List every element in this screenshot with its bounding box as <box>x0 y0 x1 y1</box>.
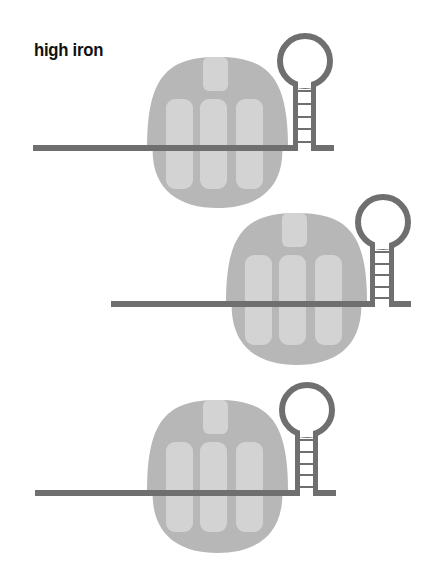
mrna-line <box>111 301 375 307</box>
base-pair-rung <box>300 439 313 441</box>
ribosome <box>226 213 367 365</box>
base-pair-rung <box>298 128 311 130</box>
trna-site-3 <box>315 255 342 345</box>
base-pair-rung <box>300 463 313 465</box>
base-pair-rung <box>375 297 389 299</box>
ribosome <box>147 400 288 553</box>
ribosome-exit-channel <box>203 57 228 91</box>
panel-2 <box>111 197 411 365</box>
panel-3 <box>35 385 336 553</box>
panel-1 <box>33 36 334 208</box>
stem-right <box>313 431 318 496</box>
trna-site-1 <box>166 99 193 189</box>
stem-right <box>311 82 316 151</box>
base-pair-rung <box>375 263 389 265</box>
ribosome-exit-channel <box>282 213 307 247</box>
base-pair-rung <box>298 90 311 92</box>
base-pair-rung <box>298 141 311 143</box>
base-pair-rung <box>375 274 389 276</box>
ribosome <box>147 57 288 208</box>
trna-site-1 <box>245 255 272 345</box>
hairpin-loop <box>358 197 408 247</box>
trna-site-2 <box>200 442 227 532</box>
mrna-line <box>33 145 298 151</box>
trna-site-3 <box>236 99 263 189</box>
stem-right <box>389 243 394 307</box>
trna-site-2 <box>279 255 306 345</box>
ribosome-exit-channel <box>203 400 228 434</box>
base-pair-rung <box>300 486 313 488</box>
base-pair-rung <box>300 474 313 476</box>
base-pair-rung <box>298 116 311 118</box>
base-pair-rung <box>300 451 313 453</box>
stem-left <box>295 431 300 496</box>
hairpin-loop <box>280 36 330 86</box>
base-pair-rung <box>375 251 389 253</box>
stem-left <box>293 82 298 151</box>
trna-site-1 <box>166 442 193 532</box>
stem-left <box>370 243 375 307</box>
trna-site-3 <box>236 442 263 532</box>
base-pair-rung <box>298 103 311 105</box>
base-pair-rung <box>375 286 389 288</box>
translation-diagram <box>0 0 438 581</box>
trna-site-2 <box>200 99 227 189</box>
hairpin-loop <box>282 385 332 435</box>
ire-hairpin <box>282 385 332 496</box>
mrna-line <box>35 490 300 496</box>
